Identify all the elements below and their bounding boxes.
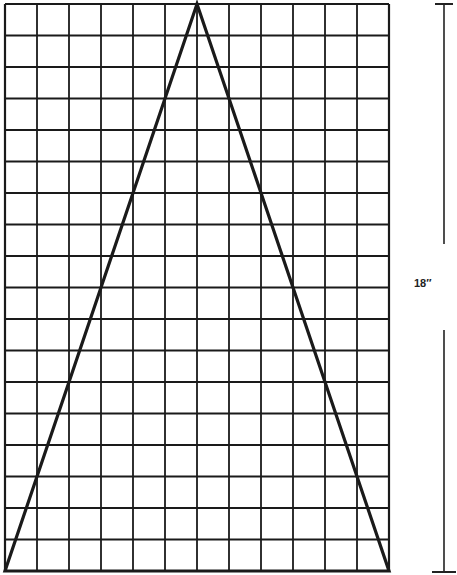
- grid-triangle-diagram: [0, 0, 457, 575]
- height-dimension-label: 18″: [414, 277, 454, 289]
- square-grid: [5, 4, 389, 571]
